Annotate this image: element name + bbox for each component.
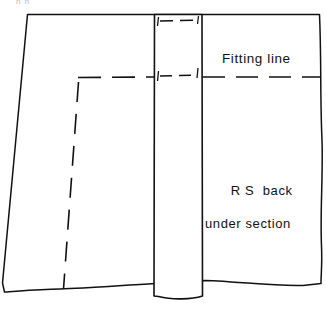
fitting-line-label: Fitting line — [222, 51, 291, 68]
rs-back-label-line2: under section — [205, 216, 293, 232]
pattern-diagram: n n Fitting line R S back under section — [0, 0, 326, 313]
rs-back-label-line1: R S back — [231, 183, 293, 198]
diagram-canvas — [0, 0, 326, 313]
rs-back-under-section-label: R S back under section — [214, 167, 293, 265]
top-caption-fragment: n n — [16, 0, 30, 7]
facing-strip-outline — [154, 15, 203, 299]
facing-strip-group — [154, 15, 203, 299]
